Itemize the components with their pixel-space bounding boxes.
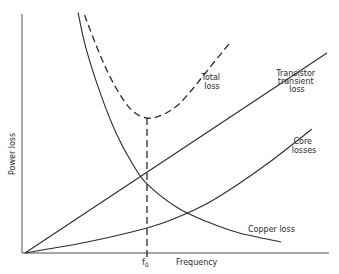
x-axis-label: Frequency — [176, 258, 218, 267]
copper-loss-label: Copper loss — [248, 225, 295, 234]
y-axis-label: Power loss — [8, 133, 17, 175]
core-losses-label: Core losses — [292, 137, 317, 155]
transistor-transient-loss-label: Transistor transient loss — [275, 69, 317, 94]
core-losses-curve — [25, 129, 312, 253]
curves — [25, 13, 327, 257]
total-loss-curve — [84, 15, 229, 118]
copper-loss-curve — [78, 13, 281, 242]
total-loss-label: Total loss — [200, 73, 222, 91]
f0-tick-label: f0 — [142, 258, 149, 268]
axes — [22, 14, 329, 253]
power-loss-vs-frequency-diagram: Power loss Frequency f0 Total loss Trans… — [0, 0, 339, 274]
